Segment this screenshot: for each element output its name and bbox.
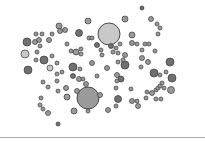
bubble xyxy=(73,49,79,55)
bubble xyxy=(116,51,120,55)
bubble xyxy=(123,53,128,58)
bubble xyxy=(37,38,42,43)
bubble xyxy=(106,108,111,113)
bubble xyxy=(149,17,154,22)
bubble xyxy=(155,22,159,26)
bubble xyxy=(47,65,53,71)
bubble xyxy=(158,26,162,30)
bubble xyxy=(153,49,157,53)
bubble xyxy=(55,72,59,76)
bubble xyxy=(115,96,122,103)
bubble xyxy=(69,49,73,53)
bubble xyxy=(122,16,128,22)
bubble xyxy=(114,86,118,90)
bubble xyxy=(86,109,90,113)
bubble xyxy=(50,54,54,58)
bubble xyxy=(130,99,135,104)
bubble xyxy=(35,50,39,54)
bubble xyxy=(159,97,163,101)
bubble xyxy=(34,32,38,36)
bubble xyxy=(116,60,120,64)
bubble-chart xyxy=(0,0,205,142)
bubble xyxy=(58,29,63,34)
bubble xyxy=(166,58,174,66)
bottom-divider xyxy=(0,137,205,138)
bubble xyxy=(162,86,166,90)
bubble xyxy=(46,85,50,89)
bubble xyxy=(55,61,59,65)
bubble xyxy=(34,58,38,62)
bubble xyxy=(24,66,32,74)
bubble xyxy=(60,70,64,74)
bubble xyxy=(69,63,77,71)
bubble xyxy=(98,93,103,98)
bubble xyxy=(140,6,144,10)
bubble xyxy=(84,82,89,87)
bubble xyxy=(41,80,45,84)
bubble xyxy=(79,52,83,56)
bubble xyxy=(79,47,83,51)
bubble xyxy=(114,46,118,50)
bubble xyxy=(136,104,141,109)
bubble xyxy=(143,42,147,46)
bubble xyxy=(40,56,48,64)
bubble xyxy=(56,122,60,126)
bubble xyxy=(146,60,151,65)
bubble xyxy=(105,66,110,71)
bubble xyxy=(129,32,135,38)
bubble xyxy=(75,89,80,94)
bubble xyxy=(76,30,83,37)
bubble xyxy=(50,32,54,36)
bubble xyxy=(129,87,133,91)
bubble xyxy=(158,73,162,77)
bubble xyxy=(56,89,60,93)
bubble xyxy=(77,87,99,109)
bubble xyxy=(64,94,70,100)
bubble xyxy=(38,44,42,48)
bubble xyxy=(21,50,29,58)
bubble xyxy=(114,104,118,108)
bubble xyxy=(156,32,160,36)
bubble xyxy=(81,77,85,81)
bubble xyxy=(147,42,151,46)
bubble xyxy=(144,96,148,100)
bubble xyxy=(56,23,62,29)
bubble xyxy=(135,99,139,103)
bubble xyxy=(118,42,122,46)
bubble xyxy=(100,53,104,57)
bubble xyxy=(46,111,51,116)
bubble xyxy=(121,58,125,62)
bubble xyxy=(95,74,99,78)
bubble xyxy=(168,87,175,94)
bubble xyxy=(115,73,120,78)
bubble xyxy=(38,103,42,107)
bubble xyxy=(150,69,158,77)
bubble xyxy=(55,79,59,83)
bubble xyxy=(71,108,77,114)
bubble xyxy=(63,28,68,33)
bubble xyxy=(90,36,94,40)
bubble xyxy=(65,42,69,46)
bubble xyxy=(98,23,120,45)
bubble xyxy=(154,97,158,101)
bubble xyxy=(71,74,76,79)
bubble xyxy=(160,81,164,85)
bubble xyxy=(135,42,139,46)
bubble xyxy=(90,61,95,66)
bubble xyxy=(85,18,91,24)
bubble xyxy=(130,41,135,46)
bubble xyxy=(39,96,43,100)
bubble xyxy=(99,48,103,52)
bubble xyxy=(145,90,149,94)
bubble xyxy=(115,79,119,83)
bubble xyxy=(78,67,82,71)
bubble xyxy=(139,65,143,69)
bubble xyxy=(41,107,45,111)
bubble xyxy=(168,74,176,82)
bubble xyxy=(140,56,145,61)
bubble xyxy=(140,48,144,52)
bubble xyxy=(111,50,115,54)
bubble xyxy=(95,43,100,48)
bubble xyxy=(150,91,155,96)
bubble xyxy=(64,86,69,91)
